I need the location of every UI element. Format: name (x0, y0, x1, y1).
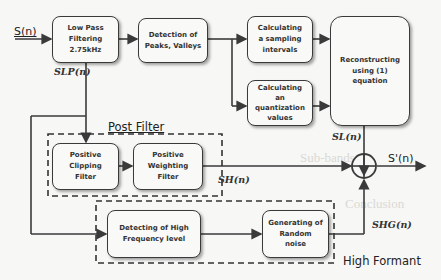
random-noise-generator-block: Generating ofRandomnoise (262, 210, 329, 258)
high-frequency-detection-block: Detecting of HighFrequency level (107, 210, 201, 258)
high-formant-region-label: High Formant (343, 254, 421, 268)
signal-label-sh: SH(n) (218, 174, 250, 185)
low-pass-filter-block: Low PassFiltering2.75kHz (52, 16, 119, 63)
signal-label-sl: SL(n) (332, 131, 361, 142)
quantization-values-block: Calculatinganquantizationvalues (247, 80, 313, 126)
post-filter-region-label: Post Filter (108, 120, 164, 134)
input-signal-label: S(n) (14, 25, 37, 38)
signal-label-shg: SHG(n) (372, 219, 412, 230)
positive-clipping-filter-block: PositiveClippingFilter (52, 143, 119, 190)
signal-label-slp: SLP(n) (54, 66, 91, 77)
sampling-interval-block: Calculatinga samplingintervals (247, 16, 313, 63)
positive-weighting-filter-block: PositiveWeightingFilter (133, 143, 203, 190)
output-signal-label: S'(n) (388, 152, 414, 165)
peak-valley-detection-block: Detection ofPeaks, Valleys (138, 18, 208, 63)
reconstruction-block: Reconstructingusing (1)equation (330, 16, 410, 126)
